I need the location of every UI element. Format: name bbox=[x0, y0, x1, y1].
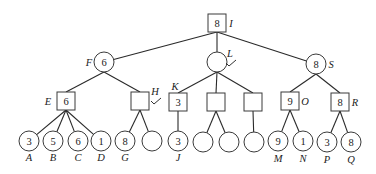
node-g: 8G bbox=[115, 131, 135, 163]
square-node-icon bbox=[244, 93, 262, 111]
node-label: C bbox=[74, 152, 82, 163]
circle-node-icon bbox=[219, 132, 239, 152]
edge-l3-l3a bbox=[253, 111, 254, 132]
node-value: 1 bbox=[300, 136, 305, 147]
node-label: L bbox=[226, 48, 233, 59]
game-tree-diagram: 8I6FL8S6EH3K9O8R3A5B6C1D8G3J9M1N3P8Q bbox=[0, 0, 376, 174]
circle-node-icon bbox=[193, 132, 213, 152]
node-value: 6 bbox=[63, 96, 68, 107]
node-j: 3J bbox=[168, 131, 188, 163]
edge-r-q bbox=[340, 111, 348, 133]
node-f: 6F bbox=[85, 52, 114, 72]
node-value: 3 bbox=[175, 97, 180, 108]
node-label: K bbox=[170, 81, 179, 92]
node-label: S bbox=[328, 59, 334, 70]
node-label: G bbox=[121, 152, 129, 163]
node-value: 6 bbox=[75, 136, 80, 147]
circle-node-icon bbox=[207, 52, 227, 72]
node-l2 bbox=[207, 93, 225, 111]
edge-l-l3 bbox=[217, 72, 253, 93]
node-label: I bbox=[228, 18, 233, 29]
node-label: F bbox=[85, 57, 93, 68]
edge-l-l2 bbox=[216, 72, 217, 93]
node-value: 3 bbox=[324, 137, 329, 148]
node-label: B bbox=[50, 152, 57, 163]
square-node-icon bbox=[131, 92, 149, 110]
edge-r-p bbox=[331, 111, 340, 133]
node-value: 9 bbox=[287, 96, 292, 107]
circle-node-icon bbox=[244, 132, 264, 152]
node-label: N bbox=[298, 153, 307, 164]
node-r: 8R bbox=[331, 93, 359, 111]
node-b: 5B bbox=[43, 131, 63, 163]
node-value: 3 bbox=[26, 136, 31, 147]
node-value: 8 bbox=[214, 18, 219, 29]
node-e: 6E bbox=[44, 92, 75, 110]
checkmark-icon bbox=[151, 98, 161, 104]
node-l3 bbox=[244, 93, 262, 111]
node-value: 8 bbox=[348, 137, 353, 148]
edge-h-g bbox=[129, 110, 140, 132]
edge-f-h bbox=[104, 72, 140, 92]
edge-l2-l2a bbox=[207, 111, 216, 133]
node-value: 5 bbox=[50, 136, 55, 147]
edge-s-r bbox=[316, 74, 340, 93]
node-i: 8I bbox=[208, 14, 233, 32]
node-n: 1N bbox=[293, 131, 313, 164]
edge-l2-l2b bbox=[216, 111, 225, 133]
node-l3a bbox=[244, 132, 264, 152]
node-k: 3K bbox=[169, 81, 187, 112]
edge-o-m bbox=[282, 110, 290, 132]
node-value: 3 bbox=[175, 136, 180, 147]
node-label: A bbox=[25, 152, 33, 163]
node-label: J bbox=[176, 152, 182, 163]
node-m: 9M bbox=[268, 131, 288, 164]
circle-node-icon bbox=[142, 131, 162, 151]
checkmark-icon bbox=[226, 60, 236, 66]
edge-h-h2 bbox=[140, 110, 148, 132]
node-label: Q bbox=[347, 154, 355, 165]
node-value: 1 bbox=[98, 136, 103, 147]
node-value: 8 bbox=[337, 97, 342, 108]
node-value: 9 bbox=[275, 136, 280, 147]
node-label: M bbox=[273, 153, 284, 164]
node-label: O bbox=[301, 96, 309, 107]
node-s: 8S bbox=[306, 54, 334, 74]
node-value: 6 bbox=[101, 57, 106, 68]
edge-i-f bbox=[114, 32, 217, 59]
tree-edges bbox=[37, 32, 348, 135]
node-a: 3A bbox=[19, 131, 39, 163]
node-d: 1D bbox=[91, 131, 111, 163]
edge-f-e bbox=[66, 72, 104, 92]
node-l2b bbox=[219, 132, 239, 152]
node-c: 6C bbox=[68, 131, 88, 163]
node-label: R bbox=[351, 97, 359, 108]
node-o: 9O bbox=[281, 92, 309, 110]
node-p: 3P bbox=[317, 132, 337, 165]
edge-s-o bbox=[290, 74, 316, 92]
node-label: H bbox=[150, 86, 160, 97]
node-l: L bbox=[207, 48, 236, 73]
node-value: 8 bbox=[313, 59, 318, 70]
node-l2a bbox=[193, 132, 213, 152]
node-label: D bbox=[96, 152, 105, 163]
edge-l-k bbox=[178, 72, 217, 93]
node-q: 8Q bbox=[341, 132, 361, 165]
square-node-icon bbox=[207, 93, 225, 111]
node-value: 8 bbox=[122, 136, 127, 147]
node-label: P bbox=[323, 154, 331, 165]
node-label: E bbox=[44, 96, 52, 107]
node-h2 bbox=[142, 131, 162, 151]
edge-o-n bbox=[290, 110, 299, 132]
